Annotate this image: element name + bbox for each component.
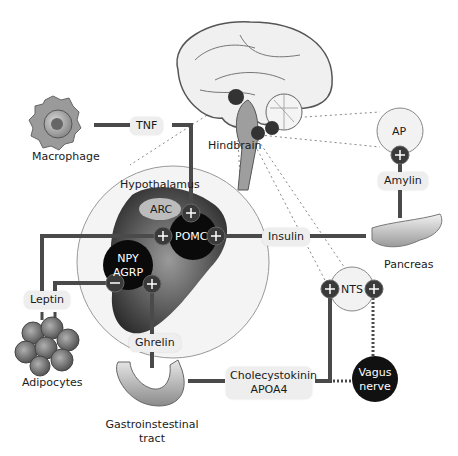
hypothalamus-label: Hypothalamus — [120, 178, 200, 191]
gi-label-line2: tract — [104, 432, 200, 445]
npy-label: NPY — [114, 252, 142, 265]
ap-label: AP — [392, 125, 406, 138]
pancreas-icon — [372, 214, 442, 247]
agrp-label: AGRP — [110, 266, 146, 279]
cck-apoa4-pill: Cholecystokinin APOA4 — [226, 367, 312, 399]
leptin-pill: Leptin — [24, 291, 70, 309]
nts-label: NTS — [341, 283, 363, 296]
macrophage-label: Macrophage — [32, 150, 100, 163]
macrophage-icon — [29, 96, 81, 150]
adipocytes-label: Adipocytes — [22, 376, 82, 389]
apoa4-label: APOA4 — [230, 383, 308, 397]
vagus-nerve-node — [352, 356, 398, 402]
pancreas-label: Pancreas — [384, 258, 433, 271]
vagus-label-line1: Vagus — [355, 366, 395, 379]
amylin-pill: Amylin — [378, 172, 428, 190]
hindbrain-label: Hindbrain — [208, 139, 262, 152]
cck-label: Cholecystokinin — [230, 369, 308, 383]
arc-label: ARC — [150, 203, 172, 216]
brain-icon — [177, 22, 332, 190]
pomc-label: POMC — [175, 230, 207, 243]
tnf-pill: TNF — [130, 117, 163, 135]
gi-label-line1: Gastroinstestinal — [104, 418, 200, 431]
adipocytes-icon — [15, 317, 79, 376]
insulin-pill: Insulin — [262, 228, 310, 246]
vagus-label-line2: nerve — [355, 380, 395, 393]
ghrelin-pill: Ghrelin — [129, 334, 181, 352]
